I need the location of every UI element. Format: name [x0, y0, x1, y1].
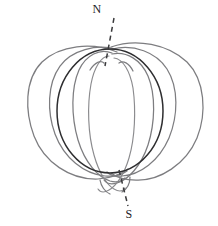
magnetic-dipole-figure: N S	[0, 0, 218, 226]
field-loop-mid-right	[107, 48, 176, 177]
field-loop-outer-right	[111, 43, 203, 180]
north-pole-label: N	[93, 2, 102, 16]
field-diagram-canvas: N S	[0, 0, 218, 226]
field-loop-innermost-right	[98, 58, 135, 192]
field-lines-left	[28, 46, 128, 191]
field-loop-outer-left	[28, 46, 128, 179]
magnetic-axis-north	[105, 18, 114, 66]
south-pole-label: S	[126, 207, 133, 221]
field-lines-right	[98, 43, 203, 192]
